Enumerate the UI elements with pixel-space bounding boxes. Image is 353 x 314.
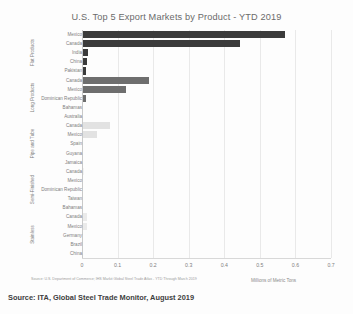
x-tick-label: 0.5 bbox=[250, 262, 270, 268]
x-tick-label: 0.1 bbox=[108, 262, 128, 268]
bar bbox=[82, 77, 149, 84]
bar-row bbox=[82, 112, 331, 121]
bar bbox=[82, 40, 240, 47]
bar-row bbox=[82, 57, 331, 66]
bar-row bbox=[82, 176, 331, 185]
gridline bbox=[331, 30, 332, 258]
group-label: Semi-Finished bbox=[30, 166, 35, 212]
category-label: Mexico bbox=[4, 85, 85, 94]
bar-row bbox=[82, 149, 331, 158]
category-label: China bbox=[4, 249, 85, 258]
bar-row bbox=[82, 30, 331, 39]
bar-row bbox=[82, 194, 331, 203]
x-tick-label: 0 bbox=[72, 262, 92, 268]
bar-row bbox=[82, 212, 331, 221]
category-label: Canada bbox=[4, 76, 85, 85]
category-label: Mexico bbox=[4, 30, 85, 39]
category-label: Australia bbox=[4, 112, 85, 121]
bar-row bbox=[82, 103, 331, 112]
group-label: Stainless bbox=[30, 212, 35, 258]
bar-row bbox=[82, 130, 331, 139]
figure-caption: Source: ITA, Global Steel Trade Monitor,… bbox=[8, 293, 194, 302]
category-label: Canada bbox=[4, 212, 85, 221]
x-tick-label: 0.6 bbox=[285, 262, 305, 268]
x-tick-label: 0.7 bbox=[321, 262, 341, 268]
bar-row bbox=[82, 167, 331, 176]
category-label: China bbox=[4, 57, 85, 66]
category-label: Bahamas bbox=[4, 203, 85, 212]
source-note: Source: U.S. Department of Commerce; IHS… bbox=[31, 277, 197, 281]
x-tick-label: 0.2 bbox=[143, 262, 163, 268]
x-tick-label: 0.3 bbox=[179, 262, 199, 268]
bar-row bbox=[82, 185, 331, 194]
bar-row bbox=[82, 139, 331, 148]
group-label: Long Products bbox=[30, 75, 35, 121]
bar-row bbox=[82, 158, 331, 167]
bar-row bbox=[82, 203, 331, 212]
x-axis-title: Millions of Metric Tons bbox=[251, 278, 296, 283]
category-label: Brazil bbox=[4, 240, 85, 249]
category-label: Canada bbox=[4, 121, 85, 130]
category-label: Mexico bbox=[4, 130, 85, 139]
bar-row bbox=[82, 66, 331, 75]
bar-row bbox=[82, 249, 331, 258]
bar-row bbox=[82, 48, 331, 57]
bar-row bbox=[82, 231, 331, 240]
plot-area bbox=[82, 30, 331, 258]
category-label: Dominican Republic bbox=[4, 185, 85, 194]
group-label: Pipe and Tube bbox=[30, 121, 35, 167]
bar bbox=[82, 122, 110, 129]
bar-row bbox=[82, 94, 331, 103]
bar-row bbox=[82, 240, 331, 249]
bar-row bbox=[82, 76, 331, 85]
category-label: Canada bbox=[4, 39, 85, 48]
category-label: Taiwan bbox=[4, 194, 85, 203]
bar-row bbox=[82, 121, 331, 130]
category-label: Germany bbox=[4, 231, 85, 240]
category-label: Dominican Republic bbox=[4, 94, 85, 103]
category-label: Pakistan bbox=[4, 66, 85, 75]
category-label: Guyana bbox=[4, 149, 85, 158]
x-axis-line bbox=[82, 258, 331, 259]
bar bbox=[82, 86, 126, 93]
chart-title: U.S. Top 5 Export Markets by Product - Y… bbox=[0, 12, 353, 22]
category-label: Canada bbox=[4, 167, 85, 176]
category-label: Jamaica bbox=[4, 158, 85, 167]
category-label: Spain bbox=[4, 139, 85, 148]
bar-row bbox=[82, 85, 331, 94]
chart-figure: U.S. Top 5 Export Markets by Product - Y… bbox=[0, 0, 353, 314]
bar-row bbox=[82, 222, 331, 231]
x-tick-label: 0.4 bbox=[214, 262, 234, 268]
bar bbox=[82, 31, 285, 38]
group-label: Flat Products bbox=[30, 30, 35, 76]
category-label: Mexico bbox=[4, 222, 85, 231]
category-label: Mexico bbox=[4, 176, 85, 185]
category-label: India bbox=[4, 48, 85, 57]
category-label: Bahamas bbox=[4, 103, 85, 112]
bar-row bbox=[82, 39, 331, 48]
